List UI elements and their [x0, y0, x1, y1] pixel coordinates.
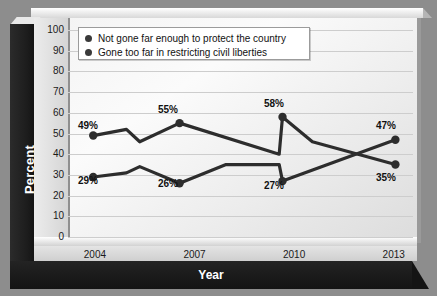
data-point-label: 55%: [158, 104, 178, 115]
legend-label: Gone too far in restricting civil libert…: [98, 47, 267, 58]
chart-legend: Not gone far enough to protect the count…: [78, 27, 310, 60]
x-axis-title: Year: [10, 268, 412, 282]
data-point-label: 26%: [158, 178, 178, 189]
data-point-label: 29%: [78, 175, 98, 186]
legend-marker-icon: [85, 49, 92, 56]
legend-label: Not gone far enough to protect the count…: [98, 33, 286, 44]
series-line: [93, 140, 395, 183]
legend-marker-icon: [85, 35, 92, 42]
data-point-marker: [391, 160, 399, 168]
data-point-label: 58%: [264, 98, 284, 109]
data-point-marker: [391, 136, 399, 144]
data-point-label: 47%: [376, 120, 396, 131]
data-point-marker: [89, 131, 97, 139]
legend-item-gone-too-far: Gone too far in restricting civil libert…: [85, 46, 303, 59]
data-point-label: 49%: [78, 120, 98, 131]
data-point-label: 27%: [264, 180, 284, 191]
legend-item-not-gone-far-enough: Not gone far enough to protect the count…: [85, 32, 303, 45]
data-point-label: 35%: [376, 172, 396, 183]
chart-figure: Percent 1009080706050403020100 200420072…: [0, 0, 437, 296]
data-point-marker: [278, 113, 286, 121]
data-point-marker: [175, 119, 183, 127]
